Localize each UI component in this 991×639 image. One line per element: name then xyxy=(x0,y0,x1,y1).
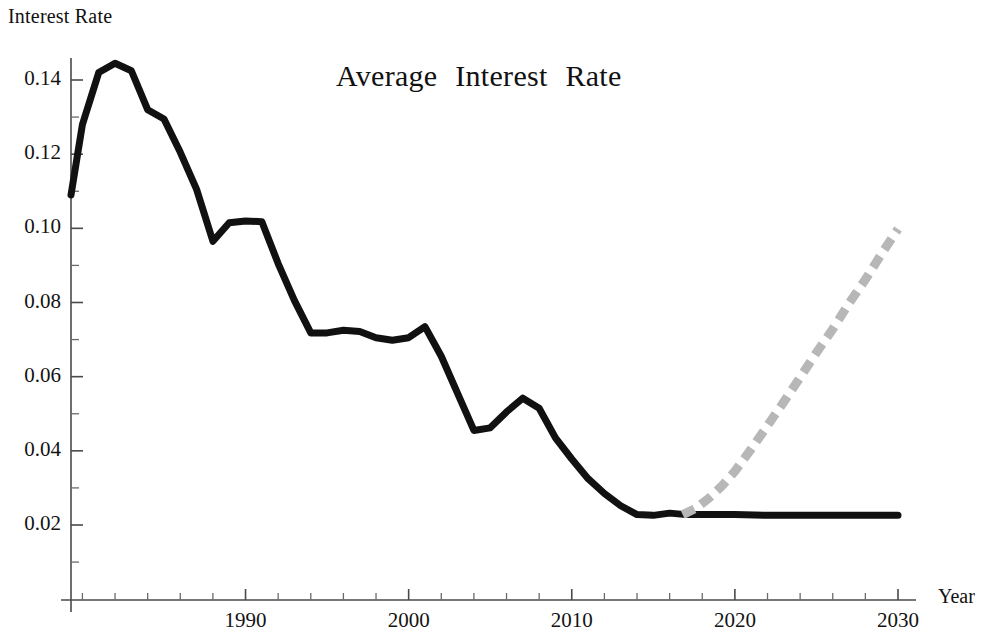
x-tick-label: 2000 xyxy=(369,608,449,632)
x-tick-label: 1990 xyxy=(206,608,286,632)
y-tick-label: 0.08 xyxy=(24,289,61,313)
x-tick-label: 2030 xyxy=(858,608,938,632)
data-series xyxy=(71,63,898,515)
series-line-forecast xyxy=(683,229,898,515)
y-tick-label: 0.06 xyxy=(24,363,61,387)
y-tick-label: 0.14 xyxy=(24,66,61,90)
axes xyxy=(61,58,916,612)
x-tick-label: 2010 xyxy=(532,608,612,632)
chart-canvas: Interest Rate Average Interest Rate Year… xyxy=(0,0,991,639)
x-tick-label: 2020 xyxy=(695,608,775,632)
y-tick-label: 0.12 xyxy=(24,140,61,164)
y-tick-label: 0.10 xyxy=(24,214,61,238)
plot-area xyxy=(0,0,991,639)
series-line-actual xyxy=(71,63,898,515)
y-tick-label: 0.04 xyxy=(24,437,61,461)
y-tick-label: 0.02 xyxy=(24,511,61,535)
